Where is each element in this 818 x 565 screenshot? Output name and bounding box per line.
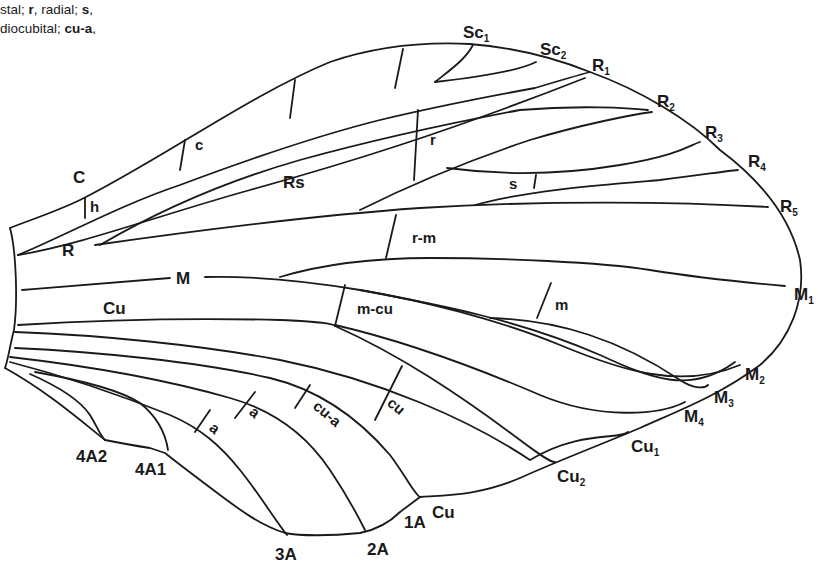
label-R3: R3 xyxy=(705,123,723,144)
crossvein-c xyxy=(180,140,185,170)
label-Sc1: Sc1 xyxy=(463,23,490,44)
label-s: s xyxy=(509,175,517,192)
M2-vein xyxy=(360,290,735,380)
label-cu-a: cu-a xyxy=(310,397,345,430)
crossvein-r-m xyxy=(386,215,396,258)
label-Rs: Rs xyxy=(283,173,305,192)
wing-diagram: C h R M Cu Rs c r s r-m m-cu m cu cu-a a… xyxy=(0,0,818,565)
label-M1: M1 xyxy=(794,285,814,306)
label-m-cu: m-cu xyxy=(357,300,393,317)
sc1-branch xyxy=(435,45,473,82)
crossvein-c2 xyxy=(290,80,295,118)
label-R4: R4 xyxy=(748,152,766,173)
label-Cu: Cu xyxy=(103,299,126,318)
wing-base xyxy=(5,228,16,368)
label-R5: R5 xyxy=(780,197,798,218)
crossvein-c3 xyxy=(395,49,403,88)
label-a-lower: a xyxy=(206,419,224,438)
media-vein xyxy=(22,277,740,377)
label-c: c xyxy=(195,136,203,153)
label-R2: R2 xyxy=(657,92,675,113)
label-R: R xyxy=(62,241,74,260)
subcosta-vein xyxy=(18,72,590,255)
R2-vein xyxy=(360,112,652,210)
crossvein-m xyxy=(537,283,551,318)
wing-veins xyxy=(5,43,801,535)
label-R1: R1 xyxy=(592,56,610,77)
label-a-upper: a xyxy=(246,403,264,422)
label-r-m: r-m xyxy=(412,229,436,246)
crossvein-m-cu xyxy=(335,285,345,326)
radius-R1-vein xyxy=(18,78,585,255)
label-4A2: 4A2 xyxy=(76,447,107,466)
crossvein-s xyxy=(534,175,536,188)
cubitus-vein xyxy=(18,319,335,326)
crossvein-r xyxy=(414,110,418,180)
label-M3: M3 xyxy=(714,388,734,409)
radial-sector-vein xyxy=(100,107,648,245)
M1-vein xyxy=(280,258,785,286)
M3-vein xyxy=(490,318,708,387)
label-2A: 2A xyxy=(367,540,389,559)
label-h: h xyxy=(90,198,99,215)
label-C: C xyxy=(73,168,85,187)
label-m: m xyxy=(555,296,568,313)
margin-labels: Sc1 Sc2 R1 R2 R3 R4 R5 M1 M2 M3 M4 Cu1 C… xyxy=(76,23,814,564)
sc2-branch xyxy=(435,62,536,82)
label-1A: 1A xyxy=(404,513,426,532)
label-4A1: 4A1 xyxy=(135,460,166,479)
Cu2-vein xyxy=(335,326,555,462)
label-3A: 3A xyxy=(275,545,297,564)
label-r: r xyxy=(430,131,436,148)
label-Cu1: Cu1 xyxy=(631,437,660,458)
label-M4: M4 xyxy=(684,407,704,428)
R3-vein xyxy=(447,142,700,173)
label-M: M xyxy=(176,269,190,288)
label-Sc2: Sc2 xyxy=(540,40,567,61)
label-M2: M2 xyxy=(745,365,765,386)
label-Cu2: Cu2 xyxy=(557,467,586,488)
label-Cu-end: Cu xyxy=(432,503,455,522)
costal-margin xyxy=(10,43,801,497)
A2-vein xyxy=(10,357,365,530)
